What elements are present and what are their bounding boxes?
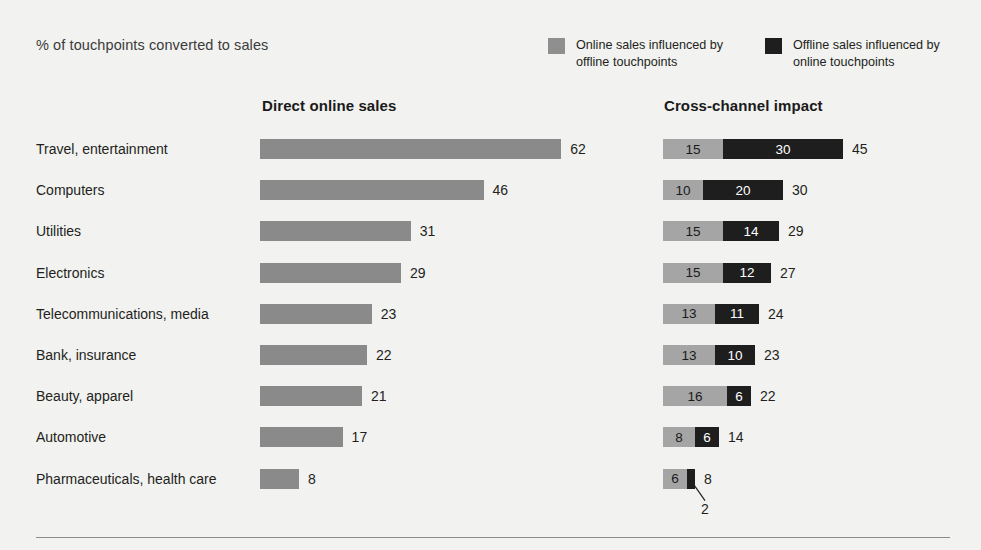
cross-channel-total-value: 30 <box>792 182 808 198</box>
category-label: Telecommunications, media <box>36 306 209 322</box>
segment-offline-value: 20 <box>735 183 750 198</box>
chart-figure: % of touchpoints converted to sales Onli… <box>0 0 981 550</box>
segment-offline-influenced: 2 <box>687 469 695 489</box>
chart-subtitle: % of touchpoints converted to sales <box>36 37 268 53</box>
segment-offline-value: 6 <box>703 430 711 445</box>
cross-channel-total-value: 24 <box>768 306 784 322</box>
cross-channel-bar-group: 102030 <box>663 180 808 200</box>
segment-offline-influenced: 11 <box>715 304 759 324</box>
cross-channel-total-value: 27 <box>780 265 796 281</box>
chart-row: Beauty, apparel2116622 <box>0 385 981 407</box>
segment-offline-influenced: 14 <box>723 221 779 241</box>
cross-channel-bar-group: 151227 <box>663 263 796 283</box>
direct-online-sales-bar-group: 62 <box>260 139 586 159</box>
segment-online-influenced: 13 <box>663 304 715 324</box>
direct-online-sales-bar-group: 17 <box>260 427 367 447</box>
cross-channel-bar-group: 16622 <box>663 386 776 406</box>
direct-online-sales-bar-group: 29 <box>260 263 426 283</box>
cross-channel-bar-group: 628 <box>663 469 712 489</box>
chart-row: Computers46102030 <box>0 179 981 201</box>
segment-online-value: 15 <box>685 142 700 157</box>
chart-row: Bank, insurance22131023 <box>0 344 981 366</box>
cross-channel-bar-group: 8614 <box>663 427 744 447</box>
direct-online-sales-value: 31 <box>420 223 436 239</box>
chart-row: Utilities31151429 <box>0 220 981 242</box>
segment-online-influenced: 6 <box>663 469 687 489</box>
segment-offline-influenced: 30 <box>723 139 843 159</box>
category-label: Bank, insurance <box>36 347 136 363</box>
chart-row: Automotive178614 <box>0 426 981 448</box>
chart-row: Telecommunications, media23131124 <box>0 303 981 325</box>
cross-channel-bar-group: 153045 <box>663 139 868 159</box>
segment-online-value: 10 <box>675 183 690 198</box>
segment-offline-influenced: 6 <box>727 386 751 406</box>
direct-online-sales-bar-group: 8 <box>260 469 316 489</box>
cross-channel-total-value: 29 <box>788 223 804 239</box>
cross-channel-bar-group: 131023 <box>663 345 780 365</box>
segment-offline-influenced: 10 <box>715 345 755 365</box>
cross-channel-bar-group: 131124 <box>663 304 784 324</box>
segment-offline-value: 30 <box>775 142 790 157</box>
direct-online-sales-bar <box>260 221 411 241</box>
panel-heading-cross-channel-impact: Cross-channel impact <box>664 97 823 114</box>
cross-channel-total-value: 45 <box>852 141 868 157</box>
direct-online-sales-bar <box>260 469 299 489</box>
segment-online-value: 15 <box>685 224 700 239</box>
segment-offline-value: 11 <box>730 306 744 321</box>
cross-channel-bar-group: 151429 <box>663 221 804 241</box>
callout-value-label: 2 <box>701 501 709 517</box>
chart-row: Travel, entertainment62153045 <box>0 138 981 160</box>
direct-online-sales-value: 22 <box>376 347 392 363</box>
segment-online-value: 15 <box>685 265 700 280</box>
legend-item-offline: Offline sales influenced by online touch… <box>765 37 968 70</box>
legend-swatch-online-icon <box>548 38 565 54</box>
segment-offline-value: 14 <box>743 224 758 239</box>
chart-row: Pharmaceuticals, health care8628 <box>0 468 981 490</box>
direct-online-sales-bar <box>260 180 484 200</box>
category-label: Computers <box>36 182 104 198</box>
footer-divider <box>36 537 950 538</box>
category-label: Travel, entertainment <box>36 141 168 157</box>
direct-online-sales-bar-group: 21 <box>260 386 387 406</box>
segment-online-influenced: 15 <box>663 263 723 283</box>
category-label: Electronics <box>36 265 104 281</box>
legend-swatch-offline-icon <box>765 38 782 54</box>
category-label: Automotive <box>36 429 106 445</box>
segment-online-influenced: 8 <box>663 427 695 447</box>
direct-online-sales-value: 29 <box>410 265 426 281</box>
legend-label-offline: Offline sales influenced by online touch… <box>793 37 968 70</box>
chart-row: Electronics29151227 <box>0 262 981 284</box>
segment-offline-value: 6 <box>735 389 743 404</box>
segment-online-value: 16 <box>687 389 702 404</box>
direct-online-sales-bar <box>260 139 561 159</box>
cross-channel-total-value: 8 <box>704 471 712 487</box>
direct-online-sales-bar-group: 31 <box>260 221 435 241</box>
cross-channel-total-value: 14 <box>728 429 744 445</box>
cross-channel-total-value: 22 <box>760 388 776 404</box>
direct-online-sales-value: 8 <box>308 471 316 487</box>
direct-online-sales-bar-group: 46 <box>260 180 508 200</box>
segment-online-value: 13 <box>681 348 696 363</box>
direct-online-sales-value: 62 <box>570 141 586 157</box>
segment-online-influenced: 10 <box>663 180 703 200</box>
segment-offline-influenced: 6 <box>695 427 719 447</box>
cross-channel-total-value: 23 <box>764 347 780 363</box>
segment-online-influenced: 16 <box>663 386 727 406</box>
category-label: Beauty, apparel <box>36 388 133 404</box>
segment-online-influenced: 13 <box>663 345 715 365</box>
segment-online-influenced: 15 <box>663 221 723 241</box>
direct-online-sales-bar <box>260 345 367 365</box>
legend-label-online: Online sales influenced by offline touch… <box>576 37 751 70</box>
direct-online-sales-value: 21 <box>371 388 387 404</box>
panel-heading-direct-online-sales: Direct online sales <box>262 97 396 114</box>
category-label: Utilities <box>36 223 81 239</box>
direct-online-sales-bar <box>260 304 372 324</box>
legend-item-online: Online sales influenced by offline touch… <box>548 37 751 70</box>
direct-online-sales-bar <box>260 427 343 447</box>
segment-offline-value: 12 <box>739 265 754 280</box>
direct-online-sales-bar <box>260 263 401 283</box>
category-label: Pharmaceuticals, health care <box>36 471 217 487</box>
segment-offline-value: 10 <box>727 348 742 363</box>
direct-online-sales-value: 23 <box>381 306 397 322</box>
segment-offline-influenced: 20 <box>703 180 783 200</box>
